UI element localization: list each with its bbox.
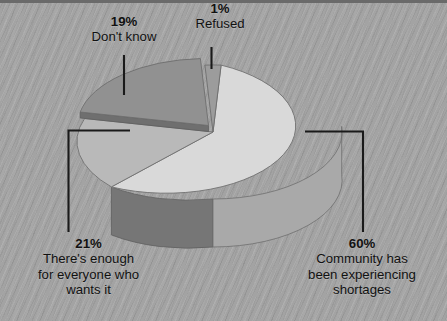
callout-label-shortages: 60% Community has been experiencing shor… [278, 236, 446, 298]
callout-label-enough: 21% There's enough for everyone who want… [0, 236, 177, 298]
callout-label-refused: 1% Refused [171, 1, 269, 32]
callout-percent-enough: 21% [0, 236, 177, 251]
callout-percent-shortages: 60% [278, 236, 446, 251]
pie-chart-figure: 19% Don't know 1% Refused 21% There's en… [0, 0, 447, 321]
callout-text-shortages-line1: Community has [278, 251, 446, 266]
callout-text-shortages-line3: shortages [278, 282, 446, 297]
callout-percent-refused: 1% [171, 1, 269, 16]
callout-text-enough-line3: wants it [0, 282, 177, 297]
callout-text-refused-line1: Refused [171, 16, 269, 31]
callout-text-enough-line1: There's enough [0, 251, 177, 266]
figure-top-border [0, 0, 447, 3]
callout-text-enough-line2: for everyone who [0, 267, 177, 282]
callout-text-shortages-line2: been experiencing [278, 267, 446, 282]
